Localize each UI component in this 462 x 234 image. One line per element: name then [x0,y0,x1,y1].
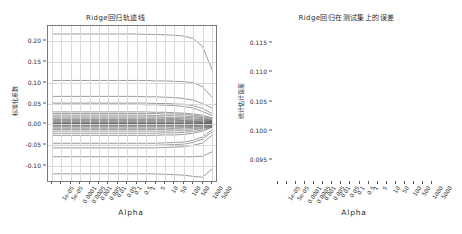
y-tick-mark [43,165,46,166]
x-tick-mark [413,181,414,184]
y-tick-label: -0.10 [0,162,41,169]
x-tick-mark [331,181,332,184]
y-tick-label: 0.15 [0,57,41,64]
ridge-test-error-x-axis-title: Alpha [273,208,435,217]
ridge-test-error-title: Ridge回归在测试集上的误差 [231,12,462,22]
y-tick-mark [43,81,46,82]
y-tick-mark [43,60,46,61]
y-tick-mark [269,159,272,160]
x-tick-label: 50 [179,185,188,194]
y-tick-mark [269,41,272,42]
y-tick-label: 0.20 [0,36,41,43]
gridline-horizontal [48,104,216,105]
y-tick-mark [269,71,272,72]
x-tick-label: 100 [190,185,201,197]
y-tick-mark [43,144,46,145]
gridline-horizontal [48,41,216,42]
gridline-horizontal [48,166,216,167]
x-tick-label: 10 [392,185,401,194]
y-tick-mark [43,102,46,103]
x-tick-label: 10 [170,185,179,194]
y-tick-mark [269,100,272,101]
ridge-trace-title: Ridge回归轨迹线 [0,12,231,22]
y-tick-label: 0.00 [0,120,41,127]
x-tick-mark [286,181,287,184]
x-tick-label: 5 [381,185,388,191]
series-line [52,152,212,157]
x-tick-label: 500 [200,185,211,197]
series-line [52,169,212,177]
x-tick-label: 50 [401,185,410,194]
x-tick-mark [295,181,296,184]
x-tick-mark [377,181,378,184]
x-tick-mark [431,181,432,184]
x-tick-mark [386,181,387,184]
y-tick-label: 0.105 [231,97,267,104]
x-tick-mark [349,181,350,184]
y-tick-label: 0.10 [0,78,41,85]
series-line [52,104,212,115]
ridge-regression-figure: Ridge回归轨迹线 标准化系数 0.200.150.100.050.00-0.… [0,0,462,234]
x-tick-label: 5 [159,185,166,191]
ridge-trace-plot-area [47,25,217,182]
gridline-horizontal [48,124,216,125]
gridline-horizontal [48,145,216,146]
x-tick-mark [277,181,278,184]
y-tick-label: -0.05 [0,141,41,148]
x-tick-mark [395,181,396,184]
x-tick-mark [404,181,405,184]
series-line [52,96,212,108]
x-tick-mark [313,181,314,184]
ridge-test-error-panel: Ridge回归在测试集上的误差 统计估计误差 0.1150.1100.1050.… [231,0,462,234]
x-tick-mark [359,181,360,184]
y-tick-label: 0.100 [231,126,267,133]
ridge-trace-panel: Ridge回归轨迹线 标准化系数 0.200.150.100.050.00-0.… [0,0,231,234]
x-tick-mark [322,181,323,184]
y-tick-mark [43,39,46,40]
gridline-horizontal [48,62,216,63]
x-tick-mark [422,181,423,184]
y-tick-label: 0.115 [231,38,267,45]
gridline-horizontal [48,83,216,84]
x-tick-mark [340,181,341,184]
y-tick-label: 0.05 [0,99,41,106]
series-line [52,34,212,70]
y-tick-label: 0.095 [231,156,267,163]
x-tick-mark [304,181,305,184]
x-tick-mark [368,181,369,184]
y-tick-mark [43,123,46,124]
y-tick-label: 0.110 [231,68,267,75]
ridge-trace-x-axis-title: Alpha [47,208,215,217]
y-tick-mark [269,129,272,130]
